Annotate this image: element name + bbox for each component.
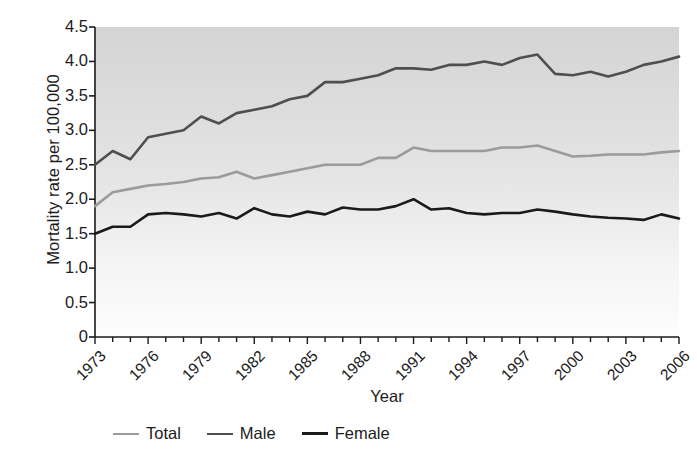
- x-tick-label: 1988: [331, 347, 375, 391]
- legend-item-female: Female: [302, 424, 390, 443]
- x-tick-label: 2000: [544, 347, 588, 391]
- legend-swatch-line-icon: [302, 432, 328, 435]
- x-tick-label: 2006: [650, 347, 694, 391]
- x-tick-label: 1973: [66, 347, 110, 391]
- x-tick-label: 1982: [225, 347, 269, 391]
- legend-swatch-line-icon: [207, 433, 233, 435]
- x-axis-title: Year: [95, 387, 679, 406]
- x-tick-label: 1997: [491, 347, 535, 391]
- legend-item-male: Male: [207, 424, 276, 443]
- x-tick-label: 1979: [172, 347, 216, 391]
- chart-legend: TotalMaleFemale: [95, 424, 679, 443]
- x-tick-label: 2003: [597, 347, 641, 391]
- chart-figure: Mortality rate per 100,000 4.54.03.53.02…: [0, 0, 697, 463]
- legend-swatch-line-icon: [113, 433, 139, 435]
- legend-label: Total: [146, 424, 181, 443]
- x-tick-label: 1976: [119, 347, 163, 391]
- x-tick-label: 1985: [278, 347, 322, 391]
- x-tick-label: 1991: [384, 347, 428, 391]
- legend-label: Male: [240, 424, 276, 443]
- legend-item-total: Total: [113, 424, 181, 443]
- x-tick-label: 1994: [438, 347, 482, 391]
- legend-label: Female: [335, 424, 390, 443]
